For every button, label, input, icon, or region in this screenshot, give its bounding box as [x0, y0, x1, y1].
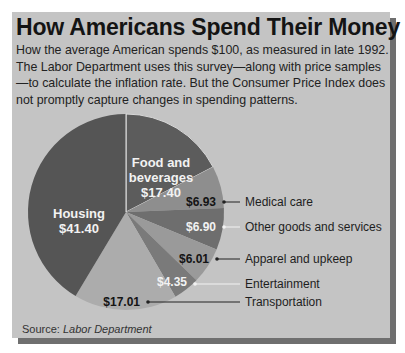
- pie-chart: Food andbeverages$17.40Housing$41.40$6.9…: [0, 0, 405, 353]
- callout-label: Transportation: [245, 295, 322, 309]
- callout-value: $6.90: [186, 220, 216, 234]
- slice-value-housing: $41.40: [59, 221, 99, 236]
- slice-value-food: $17.40: [141, 185, 181, 200]
- callout-value: $17.01: [103, 295, 140, 309]
- source-value: Labor Department: [63, 323, 152, 335]
- callout-label: Apparel and upkeep: [245, 252, 353, 266]
- slice-label-food: beverages: [129, 170, 193, 185]
- callout-value: $6.01: [179, 252, 209, 266]
- source-label: Source:: [22, 323, 60, 335]
- callout-value: $6.93: [186, 195, 216, 209]
- slice-label-food: Food and: [132, 155, 191, 170]
- callout-label: Medical care: [245, 195, 313, 209]
- slice-label-housing: Housing: [53, 206, 105, 221]
- source-note: Source: Labor Department: [22, 323, 152, 335]
- callout-value: $4.35: [157, 275, 187, 289]
- callout-label: Other goods and services: [245, 220, 382, 234]
- callout-label: Entertainment: [245, 277, 320, 291]
